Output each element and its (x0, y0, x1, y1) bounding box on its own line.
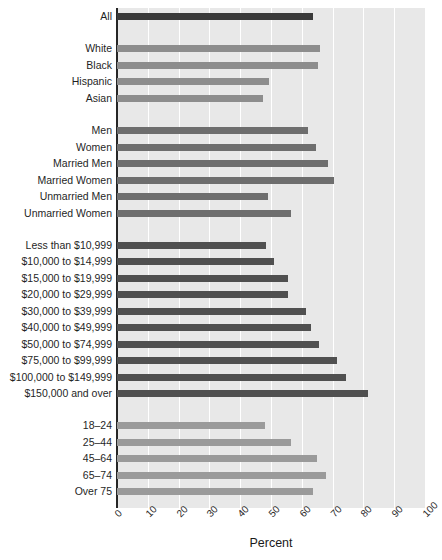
category-label-age-4: Over 75 (0, 486, 112, 497)
bar-race-ethnicity-2 (117, 78, 269, 85)
gridline-60 (302, 8, 303, 508)
bar-household-income-2 (117, 275, 288, 282)
category-label-race-ethnicity-3: Asian (0, 93, 112, 104)
bar-sex-marital-status-0 (117, 127, 308, 134)
category-label-household-income-7: $75,000 to $99,999 (0, 355, 112, 366)
bar-household-income-5 (117, 324, 311, 331)
bar-sex-marital-status-1 (117, 144, 316, 151)
category-label-household-income-3: $20,000 to $29,999 (0, 289, 112, 300)
bar-household-income-9 (117, 390, 368, 397)
bar-sex-marital-status-3 (117, 177, 334, 184)
bar-race-ethnicity-0 (117, 45, 320, 52)
bar-household-income-7 (117, 357, 337, 364)
bar-sex-marital-status-5 (117, 210, 291, 217)
category-label-race-ethnicity-0: White (0, 43, 112, 54)
bar-race-ethnicity-1 (117, 62, 318, 69)
category-label-household-income-8: $100,000 to $149,999 (0, 372, 112, 383)
gridline-80 (363, 8, 364, 508)
category-label-sex-marital-status-2: Married Men (0, 158, 112, 169)
bar-sex-marital-status-4 (117, 193, 268, 200)
category-label-sex-marital-status-5: Unmarried Women (0, 208, 112, 219)
bar-age-1 (117, 439, 291, 446)
category-label-household-income-1: $10,000 to $14,999 (0, 256, 112, 267)
category-label-age-0: 18–24 (0, 420, 112, 431)
bar-age-3 (117, 472, 326, 479)
category-label-race-ethnicity-2: Hispanic (0, 76, 112, 87)
category-label-age-2: 45–64 (0, 453, 112, 464)
bar-overall-0 (117, 13, 313, 20)
category-label-sex-marital-status-0: Men (0, 125, 112, 136)
category-label-household-income-4: $30,000 to $39,999 (0, 306, 112, 317)
bar-sex-marital-status-2 (117, 160, 328, 167)
gridline-90 (394, 8, 395, 508)
bar-age-0 (117, 422, 265, 429)
bar-household-income-6 (117, 341, 319, 348)
bar-race-ethnicity-3 (117, 95, 263, 102)
category-label-sex-marital-status-1: Women (0, 142, 112, 153)
bar-chart: AllWhiteBlackHispanicAsianMenWomenMarrie… (0, 0, 442, 560)
category-label-household-income-9: $150,000 and over (0, 388, 112, 399)
x-axis-title: Percent (117, 536, 425, 550)
category-label-sex-marital-status-3: Married Women (0, 175, 112, 186)
category-label-household-income-6: $50,000 to $74,999 (0, 339, 112, 350)
bar-age-2 (117, 455, 317, 462)
category-label-age-1: 25–44 (0, 437, 112, 448)
bar-household-income-1 (117, 258, 274, 265)
bar-household-income-4 (117, 308, 306, 315)
category-label-race-ethnicity-1: Black (0, 60, 112, 71)
bar-household-income-0 (117, 242, 266, 249)
category-label-age-3: 65–74 (0, 470, 112, 481)
category-label-household-income-2: $15,000 to $19,999 (0, 273, 112, 284)
gridline-70 (333, 8, 334, 508)
bar-age-4 (117, 488, 313, 495)
category-label-sex-marital-status-4: Unmarried Men (0, 191, 112, 202)
category-label-household-income-0: Less than $10,999 (0, 240, 112, 251)
category-label-household-income-5: $40,000 to $49,999 (0, 322, 112, 333)
category-label-overall-0: All (0, 11, 112, 22)
bar-household-income-8 (117, 374, 346, 381)
bar-household-income-3 (117, 291, 288, 298)
gridline-100 (425, 8, 426, 508)
